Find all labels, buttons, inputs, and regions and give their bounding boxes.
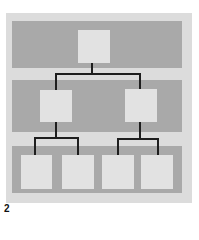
leaf-node-3 [102, 155, 134, 189]
leaf-node-1 [21, 155, 52, 189]
connector-to-leaf-3 [117, 138, 119, 155]
leaf-node-2 [62, 155, 94, 189]
root-node [78, 30, 110, 63]
connector-root-horizontal [55, 73, 141, 75]
leaf-node-4 [141, 155, 173, 189]
connector-to-leaf-1 [34, 137, 36, 155]
connector-to-middle-right [139, 73, 141, 89]
connector-to-middle-left [55, 73, 57, 90]
connector-to-leaf-4 [157, 138, 159, 155]
figure-label: 2 [4, 203, 10, 214]
middle-node-right [125, 89, 157, 122]
connector-to-leaf-2 [77, 137, 79, 155]
connector-middle-right-down [139, 122, 141, 139]
connector-middle-right-horizontal [117, 138, 159, 140]
connector-middle-left-horizontal [34, 137, 79, 139]
middle-node-left [40, 90, 72, 122]
